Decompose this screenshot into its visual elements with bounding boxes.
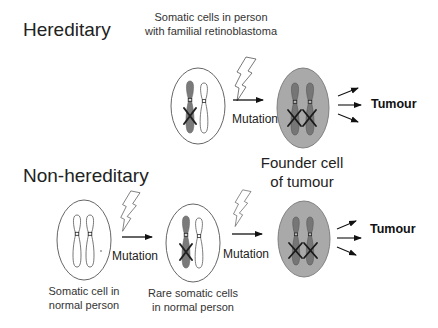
- non-hereditary-founder-cell: [278, 201, 330, 277]
- normal-somatic-cell: [57, 200, 111, 280]
- tumour-spread-arrows: [338, 88, 361, 122]
- founder-label-line1: Founder cell: [247, 153, 357, 172]
- hereditary-caption-line2: with familial retinoblastoma: [128, 24, 294, 38]
- hereditary-title: Hereditary: [23, 20, 111, 39]
- rare-somatic-cell: [166, 204, 220, 282]
- diagram-graphics: [0, 0, 438, 328]
- non-hereditary-mutation1-label: Mutation: [112, 250, 158, 262]
- hereditary-somatic-cell: [171, 68, 225, 144]
- non-hereditary-mutation2-label: Mutation: [223, 248, 269, 260]
- rare-cell-caption-line1: Rare somatic cells: [138, 286, 248, 300]
- normal-cell-caption: Somatic cell in normal person: [34, 284, 134, 312]
- hereditary-caption-line1: Somatic cells in person: [128, 10, 294, 24]
- rare-cell-caption-line2: in normal person: [138, 300, 248, 314]
- retinoblastoma-two-hit-diagram: Hereditary Somatic cells in person with …: [0, 0, 438, 328]
- normal-cell-caption-line1: Somatic cell in: [34, 284, 134, 298]
- hereditary-tumour-label: Tumour: [371, 98, 417, 111]
- founder-label-line2: of tumour: [247, 172, 357, 191]
- non-hereditary-title: Non-hereditary: [23, 166, 149, 185]
- hereditary-founder-cell: [277, 68, 329, 148]
- founder-cell-label: Founder cell of tumour: [247, 153, 357, 191]
- non-hereditary-tumour-label: Tumour: [370, 223, 416, 236]
- lightning-bolt-icon: [121, 191, 140, 231]
- normal-cell-caption-line2: normal person: [34, 298, 134, 312]
- rare-cell-caption: Rare somatic cells in normal person: [138, 286, 248, 314]
- lightning-bolt-icon: [235, 57, 256, 101]
- hereditary-mutation-label: Mutation: [232, 113, 278, 125]
- lightning-bolt-icon: [234, 190, 252, 227]
- tumour-spread-arrows: [337, 221, 361, 255]
- hereditary-caption: Somatic cells in person with familial re…: [128, 10, 294, 38]
